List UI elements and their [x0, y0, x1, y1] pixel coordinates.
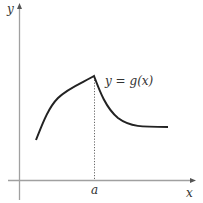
function-label: y = g(x)	[104, 74, 154, 88]
x-axis-label: x	[186, 186, 193, 200]
y-axis-arrow-icon	[17, 3, 22, 9]
graph: y x a y = g(x)	[0, 0, 203, 203]
y-axis-label: y	[6, 2, 14, 16]
x-axis-arrow-icon	[190, 178, 196, 183]
a-tick-label: a	[91, 183, 98, 197]
